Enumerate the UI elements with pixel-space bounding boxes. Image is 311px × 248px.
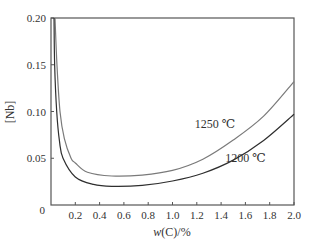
x-tick-label: 0.4 [93,209,107,221]
y-axis-ticks: 00.050.100.150.20 [27,12,54,216]
y-tick-label: 0.10 [27,106,47,118]
x-tick-label: 1.8 [263,209,277,221]
x-tick-label: 0.2 [68,209,82,221]
plot-frame [51,18,294,205]
x-axis-title: w(C)/% [153,225,190,239]
y-tick-label: 0.20 [27,12,47,24]
series-label-1250: 1250 ℃ [195,117,235,131]
y-tick-label: 0.15 [27,59,47,71]
x-tick-label: 0.6 [117,209,131,221]
x-tick-label: 0.8 [141,209,155,221]
x-tick-label: 1.6 [239,209,253,221]
x-tick-label: 2.0 [287,209,301,221]
x-axis-title-rest: (C)/% [161,225,190,239]
y-tick-label: 0.05 [27,152,47,164]
x-tick-label: 1.2 [190,209,204,221]
x-tick-label: 1.4 [214,209,228,221]
x-tick-label: 1.0 [166,209,180,221]
y-axis-title: [Nb] [3,101,17,124]
chart: 0.20.40.60.81.01.21.41.61.82.0 00.050.10… [0,0,311,248]
y-tick-label: 0 [40,204,46,216]
series-label-1200: 1200 ℃ [225,151,265,165]
x-axis-title-italic: w [153,225,161,239]
